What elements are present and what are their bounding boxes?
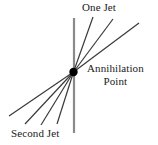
second-jet-label: Second Jet xyxy=(11,127,59,140)
annihilation-point-label: Annihilation Point xyxy=(87,62,144,87)
second-jet-ray-2 xyxy=(25,72,74,124)
one-jet-label: One Jet xyxy=(82,1,116,14)
second-jet-ray-1 xyxy=(9,72,74,116)
second-jet-ray-4 xyxy=(57,72,74,124)
second-jet-ray-3 xyxy=(41,72,74,125)
annihilation-point-label-line2: Point xyxy=(87,75,144,88)
jet-annihilation-diagram: One Jet Annihilation Point Second Jet xyxy=(0,0,158,145)
annihilation-point-label-line1: Annihilation xyxy=(87,62,144,74)
annihilation-point-dot xyxy=(69,68,77,76)
